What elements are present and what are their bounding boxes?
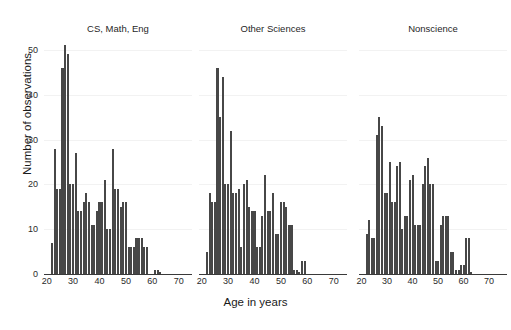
x-tick-label: 20 xyxy=(357,276,367,286)
plot-area xyxy=(199,41,347,274)
plot-area xyxy=(44,41,192,274)
x-tick-label: 60 xyxy=(147,276,157,286)
x-tick-label: 60 xyxy=(459,276,469,286)
x-tick-label: 70 xyxy=(174,276,184,286)
y-tick-label: 40 xyxy=(28,90,38,99)
y-tick-label: 0 xyxy=(33,270,38,279)
x-tick-label: 40 xyxy=(94,276,104,286)
y-tick-label: 10 xyxy=(28,225,38,234)
x-tick-label: 50 xyxy=(121,276,131,286)
panel-other-sciences: Other Sciences 203040506070 xyxy=(199,40,347,274)
panel-title: CS, Math, Eng xyxy=(44,23,192,34)
x-tick-label: 40 xyxy=(249,276,259,286)
y-tick-labels: 01020304050 xyxy=(14,40,38,274)
x-tick-label: 50 xyxy=(433,276,443,286)
x-tick-label: 30 xyxy=(68,276,78,286)
bar xyxy=(290,225,292,274)
bar xyxy=(468,238,470,274)
x-tick-label: 70 xyxy=(329,276,339,286)
x-tick-label: 30 xyxy=(382,276,392,286)
y-tick-label: 50 xyxy=(28,45,38,54)
histogram-figure: Number of observations 01020304050 CS, M… xyxy=(0,0,511,330)
x-axis-line xyxy=(44,274,192,275)
x-tick-label: 30 xyxy=(223,276,233,286)
x-tick-labels: 203040506070 xyxy=(359,276,507,290)
y-tick-label: 20 xyxy=(28,180,38,189)
bar-series xyxy=(44,41,192,274)
bar xyxy=(146,247,148,274)
bar xyxy=(304,261,306,274)
plot-area xyxy=(359,41,507,274)
x-tick-label: 60 xyxy=(302,276,312,286)
x-tick-labels: 203040506070 xyxy=(44,276,192,290)
x-tick-label: 20 xyxy=(42,276,52,286)
x-tick-label: 40 xyxy=(408,276,418,286)
x-axis-line xyxy=(199,274,347,275)
bar-series xyxy=(199,41,347,274)
x-tick-label: 20 xyxy=(197,276,207,286)
panel-title: Other Sciences xyxy=(199,23,347,34)
x-tick-label: 70 xyxy=(484,276,494,286)
x-axis-line xyxy=(359,274,507,275)
panel-nonscience: Nonscience 203040506070 xyxy=(359,40,507,274)
panel-cs-math-eng: CS, Math, Eng 203040506070 xyxy=(44,40,192,274)
x-tick-labels: 203040506070 xyxy=(199,276,347,290)
x-axis-title: Age in years xyxy=(0,296,511,308)
x-tick-label: 50 xyxy=(276,276,286,286)
panel-title: Nonscience xyxy=(359,23,507,34)
bar-series xyxy=(359,41,507,274)
y-tick-label: 30 xyxy=(28,135,38,144)
